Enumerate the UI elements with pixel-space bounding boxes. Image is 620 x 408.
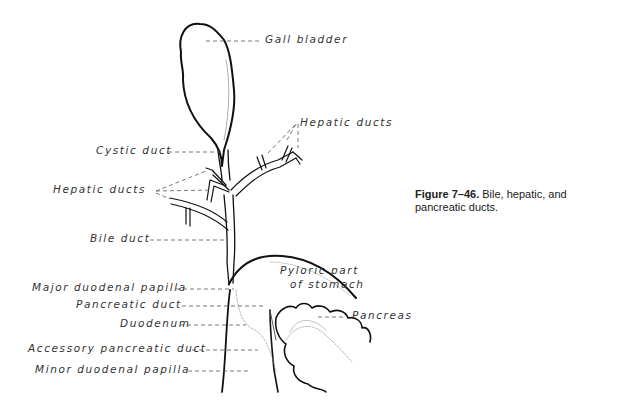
label-cystic-duct: Cystic duct bbox=[96, 144, 172, 156]
stomach-outline bbox=[229, 256, 356, 298]
label-pancreatic-duct: Pancreatic duct bbox=[76, 298, 182, 310]
label-hepatic-ducts-left: Hepatic ducts bbox=[53, 183, 146, 195]
gall-bladder-shape bbox=[180, 24, 234, 166]
bile-duct-shape bbox=[224, 195, 235, 285]
label-accessory-pancreatic-duct: Accessory pancreatic duct bbox=[28, 342, 207, 354]
label-pyloric-line1: Pyloric part bbox=[280, 264, 359, 276]
label-duodenum: Duodenum bbox=[120, 317, 191, 329]
label-hepatic-ducts-upper: Hepatic ducts bbox=[300, 116, 393, 128]
label-major-duodenal-papilla: Major duodenal papilla bbox=[32, 281, 187, 293]
label-bile-duct: Bile duct bbox=[90, 232, 150, 244]
caption-label: Figure 7–46. bbox=[415, 188, 479, 200]
figure-caption: Figure 7–46. Bile, hepatic, and pancreat… bbox=[415, 188, 605, 214]
label-gall-bladder: Gall bladder bbox=[265, 33, 348, 45]
label-pyloric-line2: of stomach bbox=[290, 278, 365, 290]
label-pancreas: Pancreas bbox=[352, 309, 413, 321]
label-minor-duodenal-papilla: Minor duodenal papilla bbox=[35, 363, 190, 375]
